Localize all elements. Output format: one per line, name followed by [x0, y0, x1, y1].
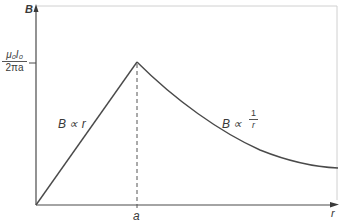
- y-axis-label: B: [25, 4, 33, 15]
- outer-region-fraction: 1 r: [249, 109, 258, 130]
- field-plot: [0, 0, 340, 223]
- outer-fraction-denominator: r: [249, 120, 258, 130]
- x-tick-label: a: [133, 210, 140, 222]
- y-axis-arrow-icon: [34, 4, 39, 12]
- y-tick-denominator: 2πa: [2, 62, 27, 73]
- outer-region-prefix: B ∝: [222, 118, 242, 130]
- outer-field-curve: [137, 62, 338, 168]
- inner-region-label: B ∝ r: [58, 118, 86, 130]
- y-tick-numerator: μ₀I₀: [2, 50, 27, 62]
- inner-field-line: [36, 62, 137, 205]
- outer-fraction-numerator: 1: [249, 109, 258, 120]
- x-axis-label: r: [331, 208, 335, 219]
- y-tick-label: μ₀I₀ 2πa: [2, 50, 27, 73]
